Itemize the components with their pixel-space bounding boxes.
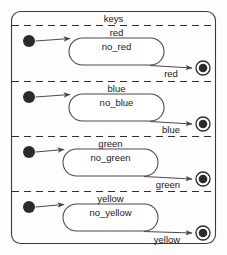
- region-blue: blue no_blue blue: [23, 83, 210, 135]
- state-name-red: red: [110, 27, 124, 38]
- region-yellow: yellow no_yellow yellow: [23, 193, 210, 245]
- final-state-node: [199, 120, 208, 129]
- composite-state-label: keys: [104, 13, 124, 24]
- diagram-canvas: keys red no_red red: [0, 0, 227, 255]
- transition-label-red: red: [164, 68, 178, 79]
- final-state-node: [199, 175, 208, 184]
- state-machine-diagram: keys red no_red red: [0, 0, 227, 255]
- region-red: red no_red red: [23, 27, 210, 79]
- final-state-node: [199, 64, 208, 73]
- initial-transition-arrow: [36, 205, 65, 208]
- initial-state-node: [23, 35, 35, 47]
- initial-state-node: [23, 146, 35, 158]
- state-name-yellow: yellow: [97, 193, 124, 204]
- initial-transition-arrow: [36, 150, 65, 153]
- initial-transition-arrow: [36, 39, 71, 42]
- final-state-node: [199, 229, 208, 238]
- transition-label-yellow: yellow: [154, 234, 181, 245]
- initial-state-node: [23, 201, 35, 213]
- exit-transition-arrow-yellow: [144, 232, 192, 234]
- state-name-blue: blue: [108, 83, 126, 94]
- state-name-green: green: [98, 138, 122, 149]
- transition-label-green: green: [156, 179, 180, 190]
- initial-state-node: [23, 91, 35, 103]
- substate-label-no-blue: no_blue: [100, 97, 134, 108]
- substate-label-no-red: no_red: [102, 41, 132, 52]
- transition-label-blue: blue: [162, 124, 180, 135]
- region-green: green no_green green: [23, 138, 210, 190]
- substate-label-no-green: no_green: [90, 152, 130, 163]
- initial-transition-arrow: [36, 95, 71, 98]
- substate-label-no-yellow: no_yellow: [89, 207, 131, 218]
